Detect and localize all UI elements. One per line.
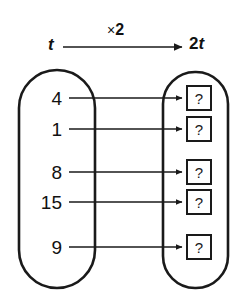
input-value: 8	[10, 163, 62, 182]
output-expression-label: 2t	[189, 35, 204, 52]
output-unknown-box[interactable]: ?	[186, 234, 212, 260]
mapping-diagram: t ×2 2t 4 1 8 15 9 ? ? ? ? ?	[0, 0, 246, 303]
operation-factor: 2	[115, 21, 124, 38]
input-variable-label: t	[48, 36, 54, 53]
output-unknown-box[interactable]: ?	[186, 189, 212, 215]
input-value: 9	[10, 238, 62, 257]
output-unknown-box[interactable]: ?	[186, 85, 212, 111]
multiplication-sign: ×	[107, 22, 115, 38]
input-value: 1	[10, 120, 62, 139]
operation-label: ×2	[107, 22, 124, 38]
input-value: 4	[10, 89, 62, 108]
output-variable: t	[198, 34, 204, 53]
output-unknown-box[interactable]: ?	[186, 116, 212, 142]
output-unknown-box[interactable]: ?	[186, 159, 212, 185]
input-value: 15	[10, 193, 62, 212]
